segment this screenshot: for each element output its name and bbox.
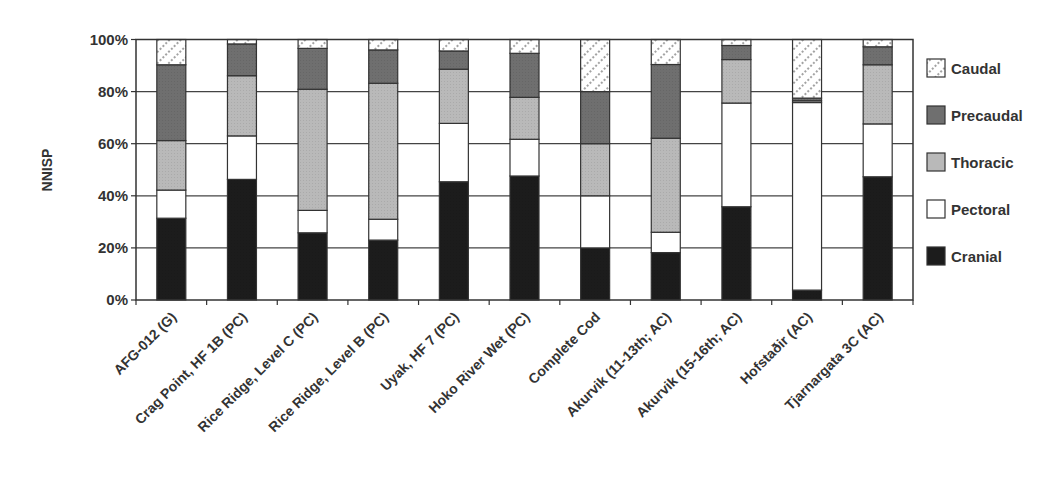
x-category-label: Rice Ridge, Level B (PC) — [265, 309, 391, 435]
bar-texture — [298, 48, 327, 89]
bar-stack — [793, 40, 822, 301]
bar-segment-caudal — [793, 40, 822, 99]
x-category-label: AFG-012 (G) — [110, 309, 179, 378]
legend-swatch — [927, 59, 945, 77]
legend-item-pectoral: Pectoral — [927, 200, 1010, 218]
bar-segment-pectoral — [439, 123, 468, 181]
y-axis-ticks: 0%20%40%60%80%100% — [90, 31, 136, 309]
bar-segment-pectoral — [157, 190, 186, 218]
x-category-label: Complete Cod — [525, 309, 603, 387]
x-category-label: Rice Ridge, Level C (PC) — [194, 309, 320, 435]
bar-stack — [510, 40, 539, 301]
bar-texture — [369, 240, 398, 300]
bar-texture — [722, 207, 751, 300]
legend-label: Cranial — [951, 248, 1002, 265]
bar-stack — [863, 40, 892, 301]
bar-texture — [369, 50, 398, 83]
bar-segment-caudal — [439, 40, 468, 51]
bar-segment-caudal — [510, 40, 539, 54]
legend-label: Precaudal — [951, 107, 1023, 124]
bar-texture — [581, 92, 610, 144]
legend-label: Caudal — [951, 60, 1001, 77]
y-tick-label: 0% — [106, 291, 128, 308]
bar-texture — [722, 45, 751, 59]
bar-texture — [157, 141, 186, 190]
bar-texture — [439, 51, 468, 69]
y-tick-label: 20% — [98, 239, 128, 256]
bar-texture — [298, 89, 327, 210]
bar-segment-pectoral — [722, 103, 751, 207]
bar-segment-caudal — [581, 40, 610, 92]
bar-texture — [793, 290, 822, 300]
y-axis-label: NNISP — [39, 149, 55, 192]
x-category-label: Hofstaðir (AC) — [737, 309, 815, 387]
bar-segment-caudal — [722, 40, 751, 46]
bar-segment-pectoral — [510, 139, 539, 176]
bar-segment-caudal — [157, 40, 186, 65]
bar-segment-pectoral — [793, 103, 822, 291]
legend-item-precaudal: Precaudal — [927, 106, 1023, 124]
bar-texture — [722, 60, 751, 104]
bar-texture — [439, 182, 468, 300]
bar-stack — [722, 40, 751, 301]
bar-stack — [298, 40, 327, 301]
bar-segment-pectoral — [581, 196, 610, 248]
bars — [157, 40, 892, 301]
bar-texture — [581, 248, 610, 300]
y-tick-label: 40% — [98, 187, 128, 204]
bar-segment-caudal — [369, 40, 398, 50]
legend-item-caudal: Caudal — [927, 59, 1001, 77]
bar-segment-caudal — [863, 40, 892, 47]
y-tick-label: 100% — [90, 31, 128, 48]
bar-texture — [227, 179, 256, 300]
bar-stack — [227, 40, 256, 301]
bar-texture — [227, 44, 256, 76]
bar-texture — [227, 76, 256, 136]
bar-stack — [651, 40, 680, 301]
bar-texture — [157, 218, 186, 300]
bar-stack — [369, 40, 398, 301]
legend: CaudalPrecaudalThoracicPectoralCranial — [927, 59, 1023, 265]
bar-segment-pectoral — [298, 210, 327, 232]
legend-swatch — [927, 106, 945, 124]
bar-texture — [863, 177, 892, 300]
bar-texture — [863, 47, 892, 65]
bar-texture — [651, 138, 680, 232]
bar-texture — [651, 65, 680, 139]
bar-segment-pectoral — [227, 136, 256, 180]
bar-stack — [581, 40, 610, 301]
legend-swatch — [927, 247, 945, 265]
legend-swatch — [927, 200, 945, 218]
legend-label: Pectoral — [951, 201, 1010, 218]
legend-item-cranial: Cranial — [927, 247, 1002, 265]
stacked-bar-chart: 0%20%40%60%80%100% AFG-012 (G)Crag Point… — [0, 0, 1062, 486]
bar-texture — [510, 53, 539, 97]
bar-segment-pectoral — [863, 124, 892, 177]
y-tick-label: 60% — [98, 135, 128, 152]
bar-texture — [298, 233, 327, 300]
bar-stack — [439, 40, 468, 301]
legend-swatch — [927, 153, 945, 171]
bar-texture — [510, 176, 539, 300]
x-axis-labels: AFG-012 (G)Crag Point, HF 1B (PC)Rice Ri… — [110, 309, 885, 435]
legend-item-thoracic: Thoracic — [927, 153, 1014, 171]
bar-segment-caudal — [651, 40, 680, 65]
bar-segment-pectoral — [369, 219, 398, 240]
legend-label: Thoracic — [951, 154, 1014, 171]
bar-texture — [581, 144, 610, 196]
bar-stack — [157, 40, 186, 301]
bar-segment-caudal — [298, 40, 327, 49]
bar-texture — [439, 69, 468, 123]
bar-texture — [863, 65, 892, 124]
y-tick-label: 80% — [98, 83, 128, 100]
bar-texture — [651, 253, 680, 300]
bar-segment-pectoral — [651, 232, 680, 252]
bar-texture — [369, 83, 398, 219]
bar-texture — [510, 97, 539, 139]
bar-texture — [157, 65, 186, 141]
